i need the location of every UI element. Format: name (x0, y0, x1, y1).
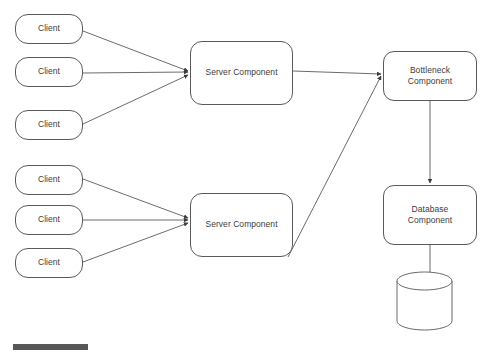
edge-client6-to-server2 (83, 223, 188, 262)
node-label: Server Component (202, 219, 280, 231)
node-label: Client (35, 119, 63, 131)
node-label: Client (35, 174, 63, 186)
node-label: Client (35, 257, 63, 269)
bottom-chrome-bar (13, 344, 88, 350)
node-client-6[interactable]: Client (15, 248, 83, 278)
node-label: Bottleneck Component (405, 65, 455, 88)
edge-server2-to-bottleneck (288, 76, 381, 257)
node-server-component-1[interactable]: Server Component (190, 41, 293, 105)
edge-client1-to-server1 (83, 31, 188, 71)
node-label: Client (35, 214, 63, 226)
node-bottleneck-component[interactable]: Bottleneck Component (383, 51, 477, 101)
node-client-3[interactable]: Client (15, 110, 83, 140)
node-label: Client (35, 23, 63, 35)
edge-server1-to-bottleneck (293, 71, 381, 74)
edge-client2-to-server1 (83, 72, 188, 73)
node-label: Server Component (202, 67, 280, 79)
node-server-component-2[interactable]: Server Component (190, 193, 293, 257)
diagram-canvas: Client Client Client Client Client Clien… (0, 0, 490, 353)
node-database-component[interactable]: Database Component (383, 185, 477, 245)
edge-client3-to-server1 (83, 75, 188, 124)
node-client-5[interactable]: Client (15, 205, 83, 235)
node-client-4[interactable]: Client (15, 165, 83, 195)
node-client-2[interactable]: Client (15, 57, 83, 87)
bottom-chrome-truncated-text (95, 343, 215, 353)
edge-client4-to-server2 (83, 179, 188, 218)
node-label: Client (35, 66, 63, 78)
node-client-1[interactable]: Client (15, 14, 83, 44)
datastore-cylinder-icon (397, 272, 452, 330)
node-label: Database Component (405, 204, 455, 227)
